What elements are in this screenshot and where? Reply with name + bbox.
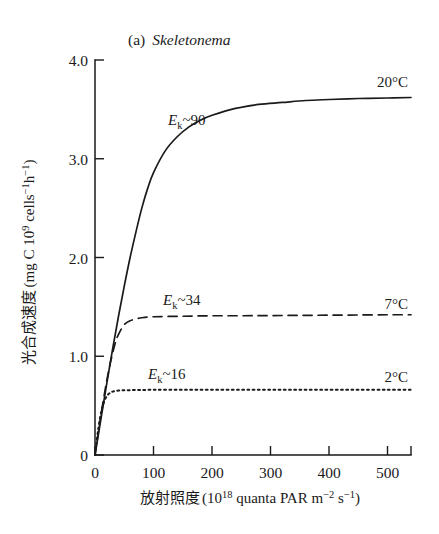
curve-2c xyxy=(95,390,411,455)
y-axis-tick-labels: 4.0 3.0 2.0 1.0 0 xyxy=(69,52,89,464)
svg-text:400: 400 xyxy=(317,464,341,481)
y-axis-title: 光合成速度(mg C 109 cells−1h−1) xyxy=(20,159,38,364)
svg-text:100: 100 xyxy=(142,464,166,481)
chart-canvas: (a)Skeletonema 4.0 3.0 2.0 1.0 0 xyxy=(0,0,439,534)
curve-20c xyxy=(95,98,411,455)
ek-annotation-7c: Ek~34 xyxy=(162,292,201,311)
svg-text:0: 0 xyxy=(80,447,88,464)
x-axis-title: 放射照度(1018 quanta PAR m−2 s−1) xyxy=(140,489,360,507)
ek-annotation-2c: Ek~16 xyxy=(147,366,186,385)
svg-text:2.0: 2.0 xyxy=(69,250,89,267)
curve-7c xyxy=(95,315,411,455)
svg-text:3.0: 3.0 xyxy=(69,151,89,168)
series-label-7c: 7°C xyxy=(384,296,408,312)
svg-text:0: 0 xyxy=(91,464,99,481)
series-label-20c: 20°C xyxy=(377,74,408,90)
axis-lines xyxy=(95,60,411,455)
y-axis-ticks xyxy=(95,60,104,455)
panel-title: (a)Skeletonema xyxy=(128,31,231,49)
svg-text:200: 200 xyxy=(200,464,224,481)
series-label-2c: 2°C xyxy=(384,369,408,385)
svg-text:1.0: 1.0 xyxy=(69,348,89,365)
svg-text:500: 500 xyxy=(376,464,400,481)
x-axis-tick-labels: 0 100 200 300 400 500 xyxy=(91,464,399,481)
svg-text:300: 300 xyxy=(259,464,283,481)
x-axis-ticks xyxy=(95,446,411,455)
svg-text:4.0: 4.0 xyxy=(69,52,89,69)
figure-panel: (a)Skeletonema 4.0 3.0 2.0 1.0 0 xyxy=(0,0,439,534)
